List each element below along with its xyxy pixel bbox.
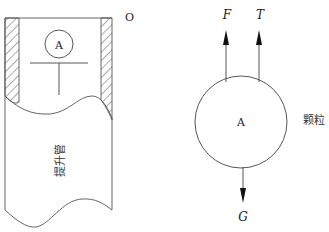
force-g-label: G <box>238 210 248 224</box>
origin-label: O <box>125 11 134 24</box>
force-f-arrowhead-icon <box>223 30 229 45</box>
diagram-canvas: A 提升管 O F T A 颗粒 G <box>0 0 329 232</box>
force-t-arrowhead-icon <box>256 30 262 45</box>
force-t-label: T <box>256 8 265 22</box>
particle-large-label: A <box>236 116 246 129</box>
pipe-break-line-upper <box>5 96 112 118</box>
riser-pipe-label: 提升管 <box>53 144 67 177</box>
particle-caption: 颗粒 <box>303 113 325 127</box>
left-wall-hatch <box>5 18 19 103</box>
free-body-panel: F T A 颗粒 G <box>195 8 325 224</box>
force-f-label: F <box>222 8 232 22</box>
particle-small-label: A <box>54 39 64 52</box>
right-wall-hatch <box>101 18 112 120</box>
force-g-arrowhead-icon <box>240 188 246 203</box>
riser-pipe-panel: A 提升管 O <box>5 11 134 227</box>
pipe-break-line-lower <box>5 199 112 227</box>
